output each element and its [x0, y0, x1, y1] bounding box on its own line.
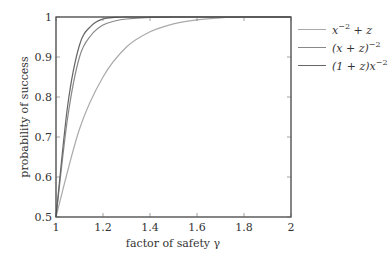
plot-lines	[56, 17, 291, 217]
legend-item: (x + z)−2	[298, 38, 388, 56]
axis-ticks: 11.21.41.61.820.50.60.70.80.91	[35, 11, 295, 234]
y-tick-label: 0.6	[35, 171, 53, 184]
x-axis-label: factor of safety γ	[126, 237, 221, 250]
x-tick-label: 1.6	[188, 221, 206, 234]
plot-frame	[56, 17, 291, 217]
legend-swatch	[298, 29, 326, 30]
legend-swatch	[298, 65, 326, 66]
x-tick-label: 1	[53, 221, 60, 234]
legend-label: x−2 + z	[332, 22, 372, 37]
y-tick-label: 1	[45, 11, 52, 24]
x-tick-label: 1.4	[141, 221, 159, 234]
legend: x−2 + z (x + z)−2 (1 + z)x−2	[298, 20, 388, 74]
legend-item: (1 + z)x−2	[298, 56, 388, 74]
series-line	[56, 17, 291, 217]
legend-label: (x + z)−2	[332, 40, 381, 55]
x-tick-label: 1.8	[235, 221, 253, 234]
legend-swatch	[298, 47, 326, 48]
legend-item: x−2 + z	[298, 20, 388, 38]
y-tick-label: 0.5	[35, 211, 53, 224]
y-axis-label: probability of success	[18, 56, 31, 178]
y-tick-label: 0.9	[35, 51, 53, 64]
x-tick-label: 2	[288, 221, 295, 234]
x-tick-label: 1.2	[94, 221, 112, 234]
series-line	[56, 17, 291, 217]
legend-label: (1 + z)x−2	[332, 58, 388, 73]
series-line	[56, 17, 291, 217]
y-tick-label: 0.7	[35, 131, 53, 144]
y-tick-label: 0.8	[35, 91, 53, 104]
